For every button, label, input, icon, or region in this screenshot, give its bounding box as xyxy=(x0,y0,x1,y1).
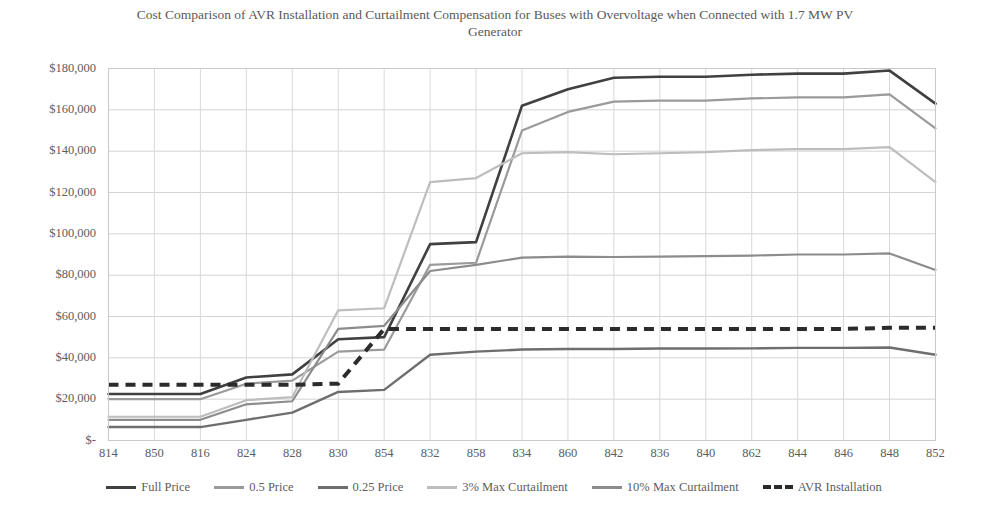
x-axis-tick-label: 834 xyxy=(499,446,545,461)
y-axis-tick-label: $40,000 xyxy=(18,350,96,365)
legend-swatch-icon xyxy=(318,486,348,489)
y-axis-tick-label: $60,000 xyxy=(18,309,96,324)
x-axis-tick-label: 830 xyxy=(315,446,361,461)
legend-label: 3% Max Curtailment xyxy=(462,480,568,495)
x-axis-tick-label: 832 xyxy=(407,446,453,461)
legend-swatch-icon xyxy=(592,486,622,489)
x-axis-tick-label: 848 xyxy=(867,446,913,461)
legend-item[interactable]: Full Price xyxy=(106,480,190,495)
y-axis-tick-label: $140,000 xyxy=(18,143,96,158)
y-axis-tick-label: $160,000 xyxy=(18,102,96,117)
y-axis-tick-label: $100,000 xyxy=(18,226,96,241)
x-axis-tick-label: 862 xyxy=(729,446,775,461)
legend-swatch-icon xyxy=(214,486,244,489)
legend-label: AVR Installation xyxy=(798,480,882,495)
legend-item[interactable]: 0.5 Price xyxy=(214,480,293,495)
x-axis-tick-label: 844 xyxy=(775,446,821,461)
legend-item[interactable]: 3% Max Curtailment xyxy=(427,480,568,495)
y-axis-tick-label: $20,000 xyxy=(18,391,96,406)
x-axis-tick-label: 860 xyxy=(545,446,591,461)
chart-legend: Full Price0.5 Price0.25 Price3% Max Curt… xyxy=(0,474,988,500)
x-axis-tick-label: 814 xyxy=(86,446,132,461)
x-axis-tick-label: 840 xyxy=(683,446,729,461)
x-axis-tick-label: 858 xyxy=(453,446,499,461)
legend-item[interactable]: 0.25 Price xyxy=(318,480,404,495)
legend-item[interactable]: 10% Max Curtailment xyxy=(592,480,739,495)
x-axis-tick-label: 850 xyxy=(131,446,177,461)
legend-label: Full Price xyxy=(141,480,190,495)
x-axis-tick-label: 852 xyxy=(913,446,959,461)
legend-label: 0.25 Price xyxy=(353,480,404,495)
legend-label: 10% Max Curtailment xyxy=(627,480,739,495)
chart-container: Cost Comparison of AVR Installation and … xyxy=(0,0,988,509)
x-axis-tick-label: 846 xyxy=(821,446,867,461)
legend-swatch-icon xyxy=(106,486,136,489)
legend-swatch-icon xyxy=(427,486,457,489)
x-axis-tick-label: 816 xyxy=(177,446,223,461)
y-axis-tick-label: $80,000 xyxy=(18,267,96,282)
y-axis-tick-label: $180,000 xyxy=(18,61,96,76)
legend-label: 0.5 Price xyxy=(249,480,293,495)
x-axis-tick-label: 854 xyxy=(361,446,407,461)
x-axis-tick-label: 828 xyxy=(269,446,315,461)
plot-area xyxy=(0,0,988,509)
x-axis-tick-label: 836 xyxy=(637,446,683,461)
legend-item[interactable]: AVR Installation xyxy=(763,480,882,495)
y-axis-tick-label: $120,000 xyxy=(18,185,96,200)
x-axis-tick-label: 842 xyxy=(591,446,637,461)
y-axis-tick-label: $- xyxy=(18,433,96,448)
x-axis-tick-label: 824 xyxy=(223,446,269,461)
legend-swatch-icon xyxy=(763,485,793,489)
